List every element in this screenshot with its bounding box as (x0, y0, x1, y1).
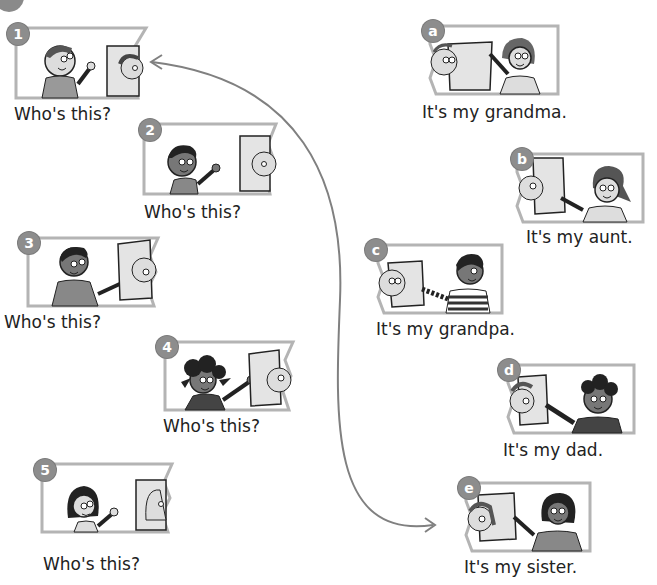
picture-frame (378, 243, 504, 315)
number-badge: 3 (18, 232, 40, 254)
picture-frame (163, 340, 293, 412)
boy-showing-photo-illustration (12, 26, 147, 101)
question-caption: Who's this? (163, 416, 260, 436)
question-caption: Who's this? (43, 554, 140, 574)
boy-showing-photo-illustration (508, 363, 636, 435)
letter-badge: a (422, 20, 444, 42)
boy-showing-photo-illustration (378, 243, 504, 315)
picture-frame (517, 152, 645, 224)
picture-frame (40, 462, 172, 534)
picture-frame (466, 481, 592, 553)
woman-showing-photo-illustration (430, 24, 560, 96)
letter-badge: d (498, 359, 520, 381)
picture-frame (430, 24, 560, 96)
picture-frame (26, 236, 158, 308)
section-number-badge (0, 0, 24, 12)
number-badge: 2 (139, 119, 161, 141)
picture-frame (12, 26, 147, 101)
answer-caption: It's my sister. (464, 557, 577, 577)
answer-caption: It's my grandma. (422, 102, 567, 122)
picture-frame (508, 363, 636, 435)
letter-badge: e (458, 477, 480, 499)
boy-showing-photo-illustration (26, 236, 158, 308)
girl-showing-photo-illustration (517, 152, 645, 224)
picture-frame (142, 122, 277, 197)
boy-showing-photo-illustration (142, 122, 277, 197)
letter-badge: c (365, 239, 387, 261)
girl-showing-photo-illustration (163, 340, 293, 412)
girl-showing-photo-illustration (466, 481, 592, 553)
question-caption: Who's this? (4, 312, 101, 332)
letter-badge: b (511, 148, 533, 170)
answer-caption: It's my grandpa. (376, 319, 515, 339)
answer-caption: It's my dad. (503, 440, 603, 460)
girl-showing-photo-illustration (40, 462, 172, 534)
number-badge: 1 (7, 23, 29, 45)
number-badge: 5 (34, 459, 56, 481)
question-caption: Who's this? (144, 202, 241, 222)
answer-caption: It's my aunt. (526, 227, 633, 247)
question-caption: Who's this? (14, 104, 111, 124)
number-badge: 4 (156, 336, 178, 358)
